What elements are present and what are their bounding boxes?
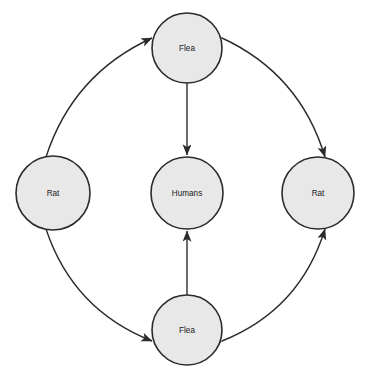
edge-fleatop-ratleft <box>46 38 152 157</box>
node-circle-flea-bottom[interactable] <box>152 295 222 365</box>
transmission-cycle-diagram: Flea Rat Humans Rat Flea <box>0 0 371 382</box>
node-circle-rat-left[interactable] <box>16 156 90 230</box>
node-rat-left[interactable]: Rat <box>16 156 90 230</box>
node-humans[interactable]: Humans <box>151 157 223 229</box>
node-rat-right[interactable]: Rat <box>282 157 354 229</box>
edge-fleabottom-ratleft <box>46 229 152 341</box>
edge-fleatop-ratright <box>222 38 325 157</box>
node-flea-bottom[interactable]: Flea <box>152 295 222 365</box>
diagram-canvas: Flea Rat Humans Rat Flea <box>0 0 371 382</box>
node-flea-top[interactable]: Flea <box>152 13 222 83</box>
node-circle-flea-top[interactable] <box>152 13 222 83</box>
edge-fleabottom-ratright <box>222 229 325 341</box>
node-circle-rat-right[interactable] <box>282 157 354 229</box>
node-circle-humans[interactable] <box>151 157 223 229</box>
